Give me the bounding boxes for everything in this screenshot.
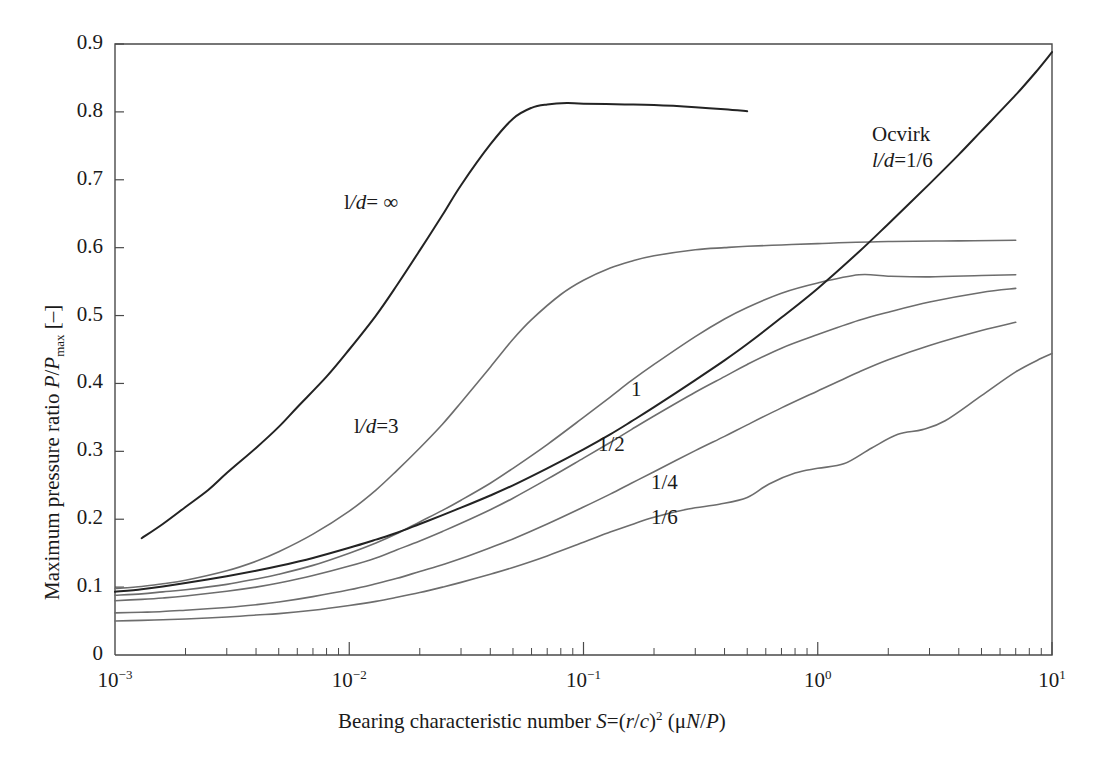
x-axis-tick-mantissa: 10 — [804, 668, 825, 692]
x-axis-tick-mantissa: 10 — [566, 668, 587, 692]
curve-label-ocvirk-ld: l/d=1/6 — [872, 148, 933, 172]
x-axis-tick-label: 101 — [1002, 667, 1102, 693]
x-axis-tick-exponent: −3 — [119, 667, 133, 682]
curve-label-ld-infinity: l/d= ∞ — [344, 190, 398, 214]
x-axis-tick-label: 10−1 — [534, 667, 634, 693]
y-axis-title-slash: / — [40, 370, 64, 376]
y-axis-tick-label: 0.9 — [27, 30, 103, 55]
x-axis-title-n: N — [686, 709, 700, 733]
x-axis-title-tail-open: (μ — [663, 709, 687, 733]
x-axis-tick-label: 10−2 — [299, 667, 399, 693]
x-axis-title-r: r — [626, 709, 634, 733]
y-axis-tick-label: 0.7 — [27, 166, 103, 191]
x-axis-tick-mantissa: 10 — [332, 668, 353, 692]
curve-series — [115, 354, 1052, 621]
x-axis-tick-exponent: −1 — [587, 667, 601, 682]
y-axis-tick-label: 0.6 — [27, 234, 103, 259]
y-axis-title-p2: P — [40, 357, 64, 370]
curve-label-1-6: 1/6 — [651, 505, 678, 529]
x-axis-title-close: ) — [649, 709, 656, 733]
x-axis-tick-exponent: 1 — [1059, 667, 1066, 682]
x-axis-title-c: c — [640, 709, 649, 733]
bearing-pressure-ratio-chart: 00.10.20.30.40.50.60.70.80.9 10−310−210−… — [0, 0, 1102, 769]
curve-label-ld-3: l/d=3 — [354, 414, 399, 438]
y-axis-title-lead: Maximum pressure ratio — [40, 388, 64, 600]
curve-label-1-4: 1/4 — [651, 470, 678, 494]
x-axis-tick-label: 10−3 — [65, 667, 165, 693]
y-axis-title-p1: P — [40, 375, 64, 388]
curve-series — [115, 240, 1016, 588]
curve-series — [115, 288, 1016, 600]
curve-series — [115, 274, 1016, 595]
y-axis-tick-label: 0.8 — [27, 98, 103, 123]
y-axis-title-unit: [–] — [40, 305, 64, 335]
curve-label-1-2: 1/2 — [598, 432, 625, 456]
x-axis-title-eq: =( — [607, 709, 626, 733]
y-axis-tick-label: 0 — [27, 641, 103, 666]
x-axis-title: Bearing characteristic number S=(r/c)2 (… — [338, 708, 726, 734]
chart-canvas — [0, 0, 1102, 769]
x-axis-tick-mantissa: 10 — [1038, 668, 1059, 692]
curve-series — [115, 322, 1016, 613]
x-axis-tick-mantissa: 10 — [98, 668, 119, 692]
y-axis-title-sub: max — [52, 334, 67, 356]
curve-label-1: 1 — [631, 377, 642, 401]
curve-label-ocvirk: Ocvirk — [872, 122, 930, 146]
x-axis-title-p: P — [706, 709, 719, 733]
x-axis-title-lead: Bearing characteristic number — [338, 709, 596, 733]
x-axis-title-s: S — [596, 709, 607, 733]
y-axis-title: Maximum pressure ratio P/Pmax [–] — [40, 305, 68, 600]
x-axis-tick-exponent: −2 — [353, 667, 367, 682]
x-axis-title-tail-close: ) — [719, 709, 726, 733]
x-axis-tick-label: 100 — [768, 667, 868, 693]
x-axis-tick-exponent: 0 — [825, 667, 832, 682]
